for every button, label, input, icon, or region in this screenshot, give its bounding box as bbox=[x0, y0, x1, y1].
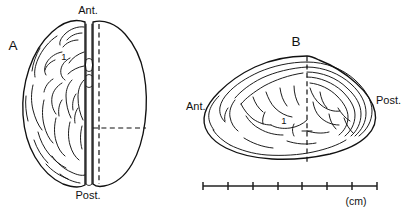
panel-b-anterior-label: Ant. bbox=[186, 100, 206, 112]
fissure-node-lower2 bbox=[86, 86, 92, 88]
panel-b-label: B bbox=[291, 34, 300, 49]
posterior-notch bbox=[86, 184, 92, 186]
panel-a-annotation-1: 1 bbox=[61, 51, 66, 62]
panel-b-posterior-label: Post. bbox=[376, 94, 401, 106]
fissure-node-upper bbox=[86, 59, 92, 61]
brain-figure: A Ant. Post. 1 bbox=[0, 0, 405, 212]
fissure-node-lower bbox=[86, 70, 92, 72]
scale-bar: (cm) bbox=[203, 182, 377, 207]
panel-a-anterior-label: Ant. bbox=[78, 4, 98, 16]
scale-bar-unit-label: (cm) bbox=[346, 195, 367, 207]
panel-a-posterior-label: Post. bbox=[75, 189, 100, 201]
lateral-brain-outline bbox=[204, 56, 376, 159]
panel-b-drawing bbox=[204, 56, 376, 162]
fissure-node-upper2 bbox=[86, 75, 92, 77]
panel-a-label: A bbox=[8, 38, 17, 53]
panel-a-drawing bbox=[23, 21, 147, 187]
right-hemisphere-outline bbox=[93, 21, 146, 186]
figure-canvas: A Ant. Post. 1 bbox=[0, 0, 405, 212]
panel-b-annotation-1: 1 bbox=[281, 115, 286, 126]
